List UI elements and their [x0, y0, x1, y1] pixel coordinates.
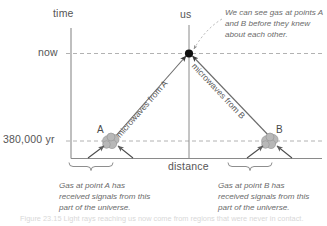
observer-label: us: [180, 9, 192, 21]
figure-caption: Figure 23.15 Light rays reaching us now …: [0, 214, 327, 226]
brace-b: [228, 163, 272, 171]
signal-arrow-b-left: [247, 146, 263, 158]
y-axis-label: time: [53, 8, 74, 20]
point-label-b: B: [276, 124, 283, 135]
figure-container: time distance now 380,000 yr us A B micr…: [0, 0, 327, 226]
annotation-leader-line: [194, 19, 222, 49]
x-axis-label: distance: [168, 161, 209, 173]
brace-a: [69, 163, 113, 171]
signal-arrow-a-left: [88, 146, 104, 158]
observer-dot: [185, 49, 193, 57]
annotation-observer-note: We can see gas at points A and B before …: [225, 7, 323, 40]
y-tick-now: now: [38, 47, 58, 59]
annotation-brace-note-b: Gas at point B has received signals from…: [218, 180, 313, 213]
signal-arrow-b-right: [277, 146, 292, 158]
point-label-a: A: [97, 124, 104, 135]
gas-blob-b: [262, 133, 278, 149]
annotation-brace-note-a: Gas at point A has received signals from…: [59, 180, 154, 213]
y-tick-recombination: 380,000 yr: [3, 134, 55, 146]
signal-arrow-a-right: [118, 146, 133, 158]
